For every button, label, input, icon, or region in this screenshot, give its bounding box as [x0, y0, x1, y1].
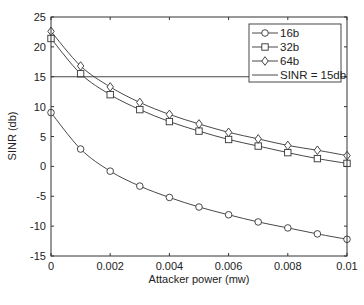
legend: 16b32b64bSINR = 15db — [249, 24, 346, 82]
legend-label: 64b — [280, 55, 299, 67]
square-marker-icon — [107, 91, 113, 97]
y-tick-label: 15 — [34, 71, 46, 83]
legend-label: 32b — [280, 41, 299, 53]
circle-marker-icon — [107, 168, 114, 175]
diamond-marker-icon — [255, 135, 261, 144]
y-tick-label: -15 — [30, 250, 46, 262]
circle-marker-icon — [225, 211, 232, 218]
x-axis-label: Attacker power (mw) — [149, 273, 250, 285]
circle-marker-icon — [314, 231, 321, 238]
diamond-marker-icon — [77, 62, 83, 71]
circle-marker-icon — [166, 194, 173, 201]
x-tick-label: 0 — [48, 260, 54, 272]
sinr-line-chart: 00.0020.0040.0060.0080.01-15-10-50510152… — [0, 0, 364, 305]
y-tick-label: 20 — [34, 41, 46, 53]
y-tick-label: 5 — [40, 131, 46, 143]
diamond-marker-icon — [285, 141, 291, 150]
y-tick-label: -5 — [36, 190, 46, 202]
circle-marker-icon — [285, 225, 292, 232]
y-tick-label: 0 — [40, 160, 46, 172]
diamond-marker-icon — [314, 146, 320, 155]
x-tick-label: 0.006 — [215, 260, 243, 272]
y-tick-label: 25 — [34, 11, 46, 23]
legend-label: SINR = 15db — [280, 69, 346, 81]
y-tick-label: -10 — [30, 220, 46, 232]
diamond-marker-icon — [107, 83, 113, 92]
x-tick-label: 0.01 — [336, 260, 357, 272]
x-tick-label: 0.002 — [96, 260, 124, 272]
diamond-marker-icon — [225, 128, 231, 137]
diamond-marker-icon — [196, 120, 202, 129]
diamond-marker-icon — [137, 98, 143, 107]
square-marker-icon — [77, 71, 83, 77]
square-marker-icon — [262, 44, 268, 50]
square-marker-icon — [314, 155, 320, 161]
circle-marker-icon — [137, 183, 144, 190]
circle-marker-icon — [262, 30, 269, 37]
legend-label: 16b — [280, 27, 299, 39]
diamond-marker-icon — [166, 110, 172, 119]
y-axis-label: SINR (db) — [6, 112, 18, 161]
x-tick-label: 0.008 — [274, 260, 302, 272]
circle-marker-icon — [255, 219, 262, 226]
circle-marker-icon — [196, 204, 203, 211]
circle-marker-icon — [77, 146, 84, 153]
y-tick-label: 10 — [34, 101, 46, 113]
x-tick-label: 0.004 — [156, 260, 184, 272]
